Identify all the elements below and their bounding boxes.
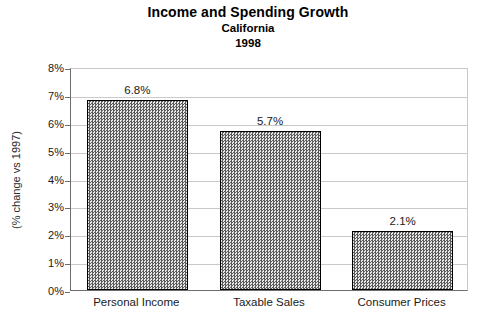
y-axis-tick-label: 4% [30, 175, 64, 186]
y-axis-tick-label: 3% [30, 202, 64, 213]
bar [87, 100, 188, 290]
chart-subtitle-year: 1998 [0, 36, 496, 51]
bar-value-label: 5.7% [200, 115, 341, 127]
chart-title-block: Income and Spending Growth California 19… [0, 4, 496, 51]
y-axis-tick [65, 125, 70, 126]
y-axis-tick [65, 181, 70, 182]
y-axis-tick-label: 1% [30, 258, 64, 269]
bar [220, 131, 321, 290]
bar-chart: Income and Spending Growth California 19… [0, 0, 496, 317]
y-axis-tick [65, 153, 70, 154]
y-axis-tick-label: 6% [30, 119, 64, 130]
y-axis-tick-label: 7% [30, 91, 64, 102]
y-axis-tick [65, 69, 70, 70]
gridline [71, 97, 467, 98]
y-axis-tick [65, 292, 70, 293]
y-axis-tick-label: 8% [30, 63, 64, 74]
y-axis-tick-labels: 0%1%2%3%4%5%6%7%8% [28, 68, 64, 291]
page-title: Income and Spending Growth [0, 4, 496, 21]
chart-subtitle: California [0, 21, 496, 36]
y-axis-title: (% change vs 1997) [4, 68, 28, 291]
bar-value-label: 6.8% [67, 84, 208, 96]
y-axis-tick [65, 208, 70, 209]
y-axis-tick-label: 2% [30, 230, 64, 241]
y-axis-title-text: (% change vs 1997) [10, 131, 22, 229]
plot-area: 6.8%5.7%2.1% [70, 68, 468, 291]
x-axis-category-label: Consumer Prices [322, 296, 482, 309]
y-axis-tick [65, 236, 70, 237]
y-axis-tick [65, 97, 70, 98]
y-axis-tick-label: 5% [30, 147, 64, 158]
bar [352, 231, 453, 290]
y-axis-tick [65, 264, 70, 265]
bar-value-label: 2.1% [332, 215, 473, 227]
